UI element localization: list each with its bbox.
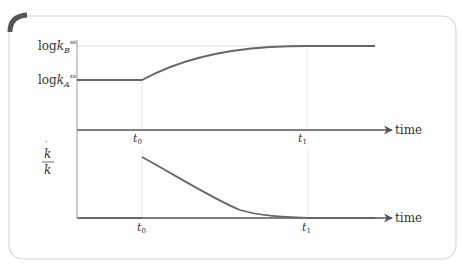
corner-accent (10, 15, 27, 32)
tick-t0-top: t0 (133, 132, 142, 146)
kdot-denominator: k (44, 163, 51, 177)
logk-curve (77, 46, 375, 80)
kdot-numerator: k (44, 147, 51, 161)
tick-t0-bottom: t0 (137, 221, 146, 235)
top-panel: logkBss logkAss t0 t1 time (38, 38, 422, 146)
top-time-label: time (395, 123, 422, 137)
kdot-over-k-curve (142, 157, 375, 218)
panel-border (9, 16, 456, 259)
tick-t1-bottom: t1 (302, 221, 311, 235)
tick-t1-top: t1 (298, 132, 307, 146)
bottom-time-label: time (395, 211, 422, 225)
diagram-stage: logkBss logkAss t0 t1 time (0, 0, 462, 268)
diagram-svg: logkBss logkAss t0 t1 time (0, 0, 462, 268)
label-logkA: logkAss (38, 72, 76, 89)
bottom-panel: ˙ k k t0 t1 time (42, 130, 422, 235)
label-logkB: logkBss (38, 38, 76, 55)
label-kdot-over-k: ˙ k k (42, 140, 54, 177)
